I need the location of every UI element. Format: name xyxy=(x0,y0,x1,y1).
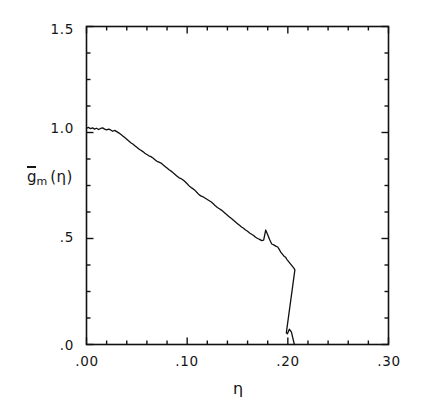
plot-frame xyxy=(87,27,389,345)
x-tick-label-10: .10 xyxy=(155,353,219,369)
y-tick-label-0-5: .5 xyxy=(8,229,74,245)
y-axis-label-subscript: m xyxy=(37,175,48,188)
x-tick-label-20: .20 xyxy=(256,353,320,369)
x-axis-label: η xyxy=(198,379,278,398)
figure-container: 1.5 1.0 .5 .0 .00 .10 .20 .30 gm(η) η xyxy=(0,0,422,414)
curve-gm-eta xyxy=(87,127,295,344)
y-tick-label-1-0: 1.0 xyxy=(8,120,74,136)
y-tick-label-1-5: 1.5 xyxy=(8,21,74,37)
x-tick-label-00: .00 xyxy=(55,353,119,369)
axes-frame xyxy=(87,27,389,345)
y-axis-label: gm(η) xyxy=(14,168,86,188)
y-tick-label-0-0: .0 xyxy=(8,337,74,353)
x-tick-label-30: .30 xyxy=(357,353,421,369)
tick-marks-group xyxy=(87,27,389,345)
y-axis-label-gbar: g xyxy=(27,168,37,186)
data-curve-group xyxy=(87,127,295,344)
y-axis-label-argument: (η) xyxy=(50,168,73,186)
